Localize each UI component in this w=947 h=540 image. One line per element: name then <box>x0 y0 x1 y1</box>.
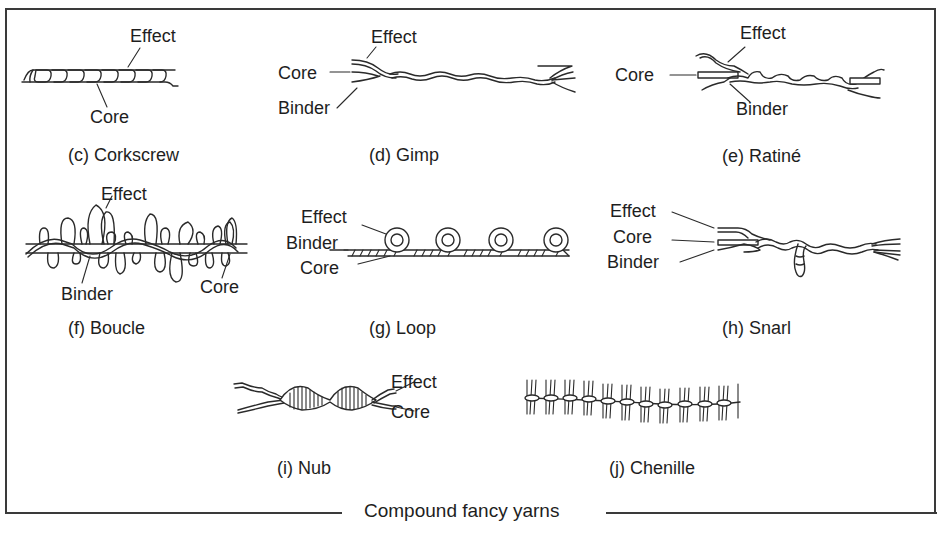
snarl-binder-label: Binder <box>607 253 659 271</box>
boucle-core-label: Core <box>200 278 239 296</box>
gimp-core-label: Core <box>278 64 317 82</box>
boucle-yarn-drawing <box>26 196 247 283</box>
corkscrew-core-label: Core <box>90 108 129 126</box>
corkscrew-caption: (c) Corkscrew <box>68 146 179 164</box>
snarl-yarn-drawing <box>672 212 900 277</box>
nub-caption: (i) Nub <box>277 459 331 477</box>
compound-fancy-yarns-figure: Compound fancy yarns <box>0 0 947 540</box>
loop-caption: (g) Loop <box>369 319 436 337</box>
gimp-caption: (d) Gimp <box>369 146 439 164</box>
ratine-yarn-drawing <box>670 47 884 102</box>
ratine-core-label: Core <box>615 66 654 84</box>
corkscrew-effect-label: Effect <box>130 27 176 45</box>
ratine-caption: (e) Ratiné <box>722 147 801 165</box>
loop-circles <box>385 228 568 252</box>
corkscrew-yarn-drawing <box>22 48 178 107</box>
loop-effect-label: Effect <box>301 208 347 226</box>
gimp-yarn-drawing <box>330 47 575 108</box>
boucle-caption: (f) Boucle <box>68 319 145 337</box>
loop-binder-label: Binder <box>286 234 338 252</box>
loop-core-label: Core <box>300 259 339 277</box>
boucle-effect-label: Effect <box>101 185 147 203</box>
boucle-binder-label: Binder <box>61 285 113 303</box>
chenille-caption: (j) Chenille <box>609 459 695 477</box>
snarl-core-label: Core <box>613 228 652 246</box>
nub-yarn-drawing <box>234 382 414 413</box>
nub-core-label: Core <box>391 403 430 421</box>
ratine-binder-label: Binder <box>736 100 788 118</box>
yarn-illustrations <box>0 0 947 540</box>
snarl-effect-label: Effect <box>610 202 656 220</box>
gimp-binder-label: Binder <box>278 99 330 117</box>
chenille-yarn-drawing <box>525 380 740 423</box>
loop-yarn-drawing <box>330 225 569 264</box>
nub-effect-label: Effect <box>391 373 437 391</box>
snarl-caption: (h) Snarl <box>722 319 791 337</box>
gimp-effect-label: Effect <box>371 28 417 46</box>
ratine-effect-label: Effect <box>740 24 786 42</box>
